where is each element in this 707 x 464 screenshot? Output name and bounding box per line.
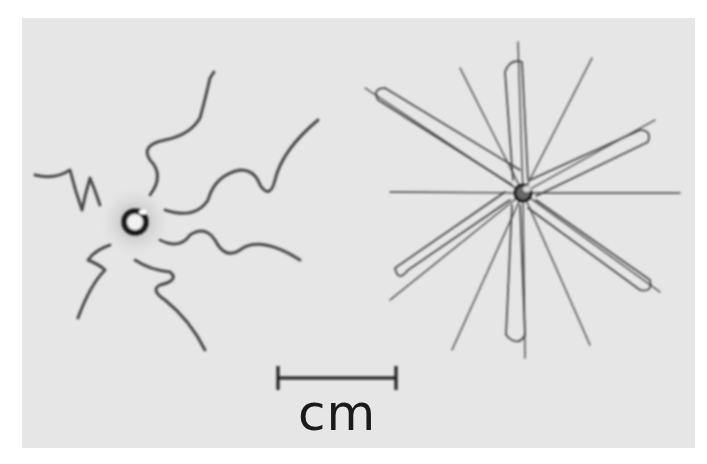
photograph: cm xyxy=(22,18,695,448)
radial-loop-wire-device xyxy=(365,42,680,358)
coiled-wire-device xyxy=(35,72,318,350)
scale-bar-label: cm xyxy=(298,388,376,438)
